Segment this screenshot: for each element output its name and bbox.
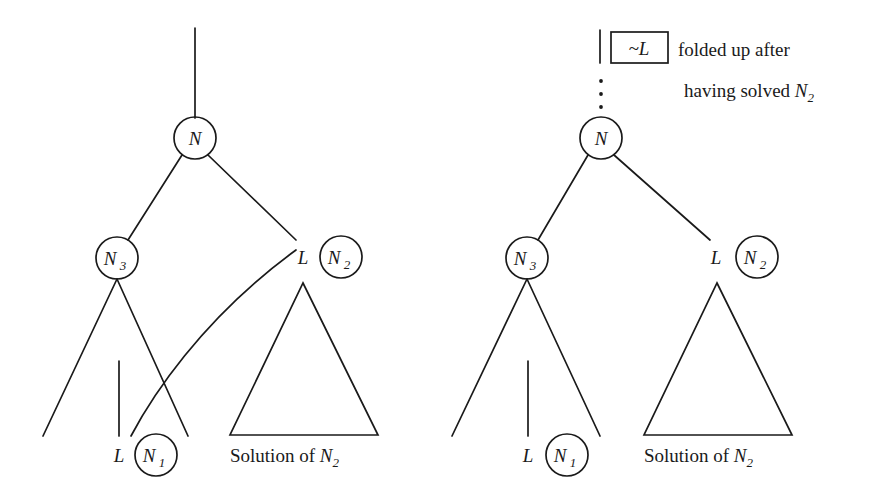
dotted-stem-dot-3 xyxy=(599,105,603,109)
node-sub-N2-right: 2 xyxy=(760,257,767,272)
triangle-caption-right: Solution of N2 xyxy=(644,445,753,470)
node-label-N3-left: N xyxy=(103,248,118,269)
node-circle-N1-left xyxy=(135,434,177,476)
solution-triangle-left xyxy=(230,283,378,435)
annotation-box-label: ~L xyxy=(629,38,650,59)
dotted-stem-dot-2 xyxy=(599,92,603,96)
dotted-stem-dot-1 xyxy=(599,79,603,83)
node-label-N-right: N xyxy=(594,128,609,149)
solution-triangle-right xyxy=(644,283,792,435)
node-sub-N1-right: 1 xyxy=(570,455,577,470)
edge-N-to-N2-right xyxy=(614,155,710,240)
panel-right-after-folding: ~L folded up after having solved N2 N N … xyxy=(452,30,815,476)
node-label-N1-right: N xyxy=(553,445,568,466)
node-sub-N1-left: 1 xyxy=(159,455,166,470)
panel-left-before-folding: N N 3 L N 2 L xyxy=(43,28,378,476)
literal-label-L-N1-right: L xyxy=(522,445,534,466)
literal-label-L-N2-left: L xyxy=(297,247,309,268)
edge-N-to-N3-left xyxy=(128,155,182,240)
node-label-N2-left: N xyxy=(327,247,342,268)
node-sub-N3-left: 3 xyxy=(119,258,127,273)
node-circle-N1-right xyxy=(546,434,588,476)
edge-N-to-N2-left xyxy=(208,155,296,240)
node-sub-N3-right: 3 xyxy=(529,258,537,273)
node-circle-N3-right xyxy=(506,237,548,279)
annotation-line-2: having solved N2 xyxy=(684,80,815,105)
edge-N3-left-outer-left xyxy=(43,279,117,436)
edge-N3-left-outer-right xyxy=(452,279,527,436)
proof-tree-diagram: N N 3 L N 2 L xyxy=(0,0,877,498)
figure-canvas: N N 3 L N 2 L xyxy=(0,0,877,498)
node-label-N1-left: N xyxy=(142,445,157,466)
edge-N3-right-outer-right xyxy=(527,279,600,436)
node-label-N-left: N xyxy=(188,128,203,149)
node-sub-N2-left: 2 xyxy=(344,257,351,272)
node-label-N2-right: N xyxy=(743,247,758,268)
edge-N3-right-outer-left xyxy=(117,279,188,436)
node-circle-N3-left xyxy=(96,237,138,279)
literal-label-L-N1-left: L xyxy=(113,445,125,466)
node-circle-N2-right xyxy=(736,236,778,278)
literal-label-L-N2-right: L xyxy=(710,247,722,268)
node-label-N3-right: N xyxy=(513,248,528,269)
triangle-caption-left: Solution of N2 xyxy=(230,445,339,470)
folding-arc-left xyxy=(131,250,296,436)
node-circle-N2-left xyxy=(320,236,362,278)
annotation-line-1: folded up after xyxy=(678,39,791,60)
edge-N-to-N3-right xyxy=(538,155,588,240)
